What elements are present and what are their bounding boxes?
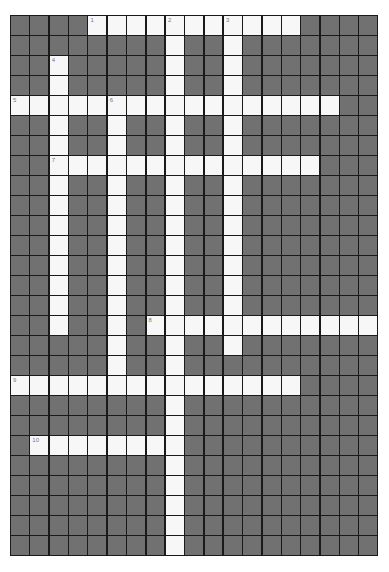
crossword-cell-open[interactable] [108, 276, 126, 295]
crossword-cell-open[interactable] [359, 316, 377, 335]
crossword-cell-open[interactable] [282, 376, 300, 395]
crossword-cell-open[interactable] [166, 116, 184, 135]
crossword-cell-open[interactable] [321, 316, 339, 335]
crossword-cell-open[interactable] [263, 16, 281, 35]
crossword-cell-open[interactable] [50, 96, 68, 115]
crossword-cell-open[interactable] [166, 216, 184, 235]
crossword-cell-open[interactable]: 1 [88, 16, 106, 35]
crossword-cell-open[interactable] [321, 96, 339, 115]
crossword-cell-open[interactable] [166, 196, 184, 215]
crossword-cell-open[interactable] [88, 436, 106, 455]
crossword-cell-open[interactable] [301, 156, 319, 175]
crossword-cell-open[interactable] [243, 376, 261, 395]
crossword-cell-open[interactable] [108, 216, 126, 235]
crossword-cell-open[interactable] [166, 256, 184, 275]
crossword-cell-open[interactable] [50, 216, 68, 235]
crossword-cell-open[interactable] [50, 236, 68, 255]
crossword-cell-open[interactable] [205, 16, 223, 35]
crossword-cell-open[interactable] [88, 376, 106, 395]
crossword-cell-open[interactable] [224, 236, 242, 255]
crossword-cell-open[interactable] [108, 156, 126, 175]
crossword-cell-open[interactable] [282, 156, 300, 175]
crossword-cell-open[interactable] [205, 156, 223, 175]
crossword-cell-open[interactable] [50, 316, 68, 335]
crossword-cell-open[interactable] [224, 336, 242, 355]
crossword-cell-open[interactable] [69, 96, 87, 115]
crossword-cell-open[interactable] [166, 496, 184, 515]
crossword-cell-open[interactable]: 5 [11, 96, 29, 115]
crossword-cell-open[interactable] [50, 256, 68, 275]
crossword-cell-open[interactable] [69, 156, 87, 175]
crossword-cell-open[interactable] [108, 316, 126, 335]
crossword-cell-open[interactable] [340, 316, 358, 335]
crossword-cell-open[interactable]: 10 [30, 436, 48, 455]
crossword-cell-open[interactable] [108, 256, 126, 275]
crossword-cell-open[interactable] [166, 136, 184, 155]
crossword-cell-open[interactable] [147, 376, 165, 395]
crossword-cell-open[interactable] [224, 376, 242, 395]
crossword-cell-open[interactable] [185, 96, 203, 115]
crossword-cell-open[interactable] [127, 156, 145, 175]
crossword-cell-open[interactable] [166, 276, 184, 295]
crossword-cell-open[interactable] [108, 436, 126, 455]
crossword-cell-open[interactable] [166, 476, 184, 495]
crossword-cell-open[interactable] [108, 376, 126, 395]
crossword-cell-open[interactable] [185, 156, 203, 175]
crossword-cell-open[interactable] [88, 96, 106, 115]
crossword-cell-open[interactable] [263, 96, 281, 115]
crossword-cell-open[interactable] [224, 76, 242, 95]
crossword-cell-open[interactable] [224, 256, 242, 275]
crossword-cell-open[interactable] [127, 16, 145, 35]
crossword-cell-open[interactable] [243, 156, 261, 175]
crossword-cell-open[interactable] [108, 136, 126, 155]
crossword-cell-open[interactable] [166, 416, 184, 435]
crossword-cell-open[interactable] [263, 156, 281, 175]
crossword-cell-open[interactable] [127, 436, 145, 455]
crossword-cell-open[interactable] [185, 376, 203, 395]
crossword-cell-open[interactable] [166, 356, 184, 375]
crossword-cell-open[interactable] [224, 276, 242, 295]
crossword-cell-open[interactable] [166, 516, 184, 535]
crossword-cell-open[interactable] [205, 376, 223, 395]
crossword-cell-open[interactable] [301, 316, 319, 335]
crossword-cell-open[interactable]: 4 [50, 56, 68, 75]
crossword-cell-open[interactable] [185, 316, 203, 335]
crossword-cell-open[interactable] [166, 56, 184, 75]
crossword-cell-open[interactable] [50, 176, 68, 195]
crossword-cell-open[interactable] [243, 316, 261, 335]
crossword-cell-open[interactable] [50, 196, 68, 215]
crossword-cell-open[interactable] [166, 176, 184, 195]
crossword-cell-open[interactable]: 7 [50, 156, 68, 175]
crossword-cell-open[interactable] [166, 156, 184, 175]
crossword-cell-open[interactable] [166, 36, 184, 55]
crossword-cell-open[interactable] [224, 316, 242, 335]
crossword-cell-open[interactable] [263, 316, 281, 335]
crossword-cell-open[interactable] [108, 196, 126, 215]
crossword-cell-open[interactable] [166, 76, 184, 95]
crossword-cell-open[interactable] [108, 356, 126, 375]
crossword-cell-open[interactable] [224, 116, 242, 135]
crossword-cell-open[interactable] [243, 96, 261, 115]
crossword-cell-open[interactable] [69, 376, 87, 395]
crossword-cell-open[interactable] [282, 316, 300, 335]
crossword-cell-open[interactable] [224, 216, 242, 235]
crossword-cell-open[interactable] [166, 96, 184, 115]
crossword-cell-open[interactable] [69, 436, 87, 455]
crossword-cell-open[interactable] [50, 276, 68, 295]
crossword-cell-open[interactable] [166, 316, 184, 335]
crossword-cell-open[interactable]: 2 [166, 16, 184, 35]
crossword-cell-open[interactable] [147, 16, 165, 35]
crossword-cell-open[interactable] [224, 56, 242, 75]
crossword-cell-open[interactable] [166, 456, 184, 475]
crossword-cell-open[interactable] [166, 296, 184, 315]
crossword-cell-open[interactable] [224, 156, 242, 175]
crossword-cell-open[interactable] [205, 96, 223, 115]
crossword-cell-open[interactable] [166, 336, 184, 355]
crossword-cell-open[interactable]: 3 [224, 16, 242, 35]
crossword-cell-open[interactable] [166, 436, 184, 455]
crossword-cell-open[interactable] [50, 376, 68, 395]
crossword-cell-open[interactable] [243, 16, 261, 35]
crossword-cell-open[interactable] [224, 136, 242, 155]
crossword-cell-open[interactable] [30, 376, 48, 395]
crossword-cell-open[interactable] [50, 136, 68, 155]
